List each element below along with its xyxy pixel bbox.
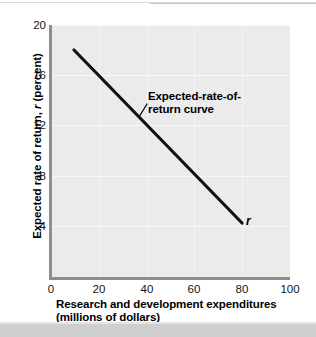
curve-annotation-line1: Expected-rate-of- [148, 90, 241, 102]
curve-annotation: Expected-rate-of- return curve [148, 90, 241, 116]
footer-bar [0, 324, 316, 337]
expected-rate-of-return-curve [74, 50, 242, 223]
figure-container: 20 16 12 8 4 0 20 40 60 80 100 Expected … [0, 0, 316, 337]
curve-annotation-line2: return curve [148, 103, 241, 116]
data-layer [0, 0, 316, 337]
annotation-leader-line [139, 104, 147, 117]
curve-end-label: r [246, 215, 251, 227]
